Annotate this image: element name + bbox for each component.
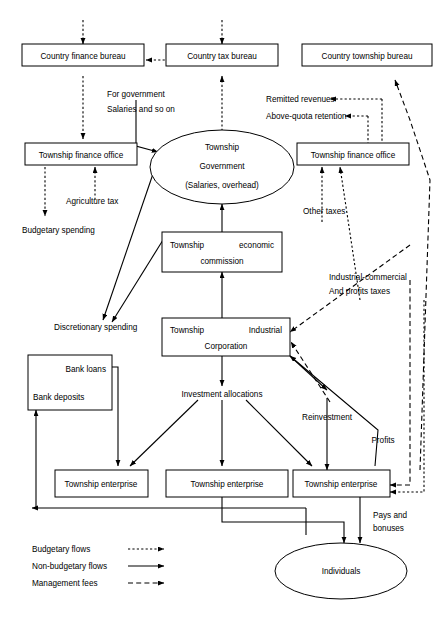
node-township-government[interactable]: Township Government (Salaries, overhead) — [150, 130, 294, 204]
legend-item-2-label: Management fees — [32, 579, 98, 588]
node-country-township-bureau-label: Country township bureau — [321, 52, 412, 61]
label-pays-and-bonuses-line1: Pays and — [373, 511, 408, 520]
node-economic-commission-line1b: economic — [239, 241, 274, 250]
node-township-enterprise-1-label: Township enterprise — [65, 480, 138, 489]
label-investment-allocations: Investment allocations — [181, 390, 262, 399]
node-industrial-corporation-line2: Corporation — [205, 342, 248, 351]
node-industrial-corporation-line1b: Industrial — [249, 326, 282, 335]
node-township-economic-commission[interactable]: Township economic commission — [162, 232, 282, 272]
node-township-finance-office-right[interactable]: Township finance office — [297, 143, 409, 165]
node-country-township-bureau[interactable]: Country township bureau — [302, 44, 432, 66]
label-profits: Profits — [371, 436, 394, 445]
node-township-finance-office-right-label: Township finance office — [311, 151, 396, 160]
node-bank-loans-label: Bank loans — [65, 365, 106, 374]
label-reinvestment: Reinvestment — [302, 413, 353, 422]
node-township-government-line2: Government — [199, 162, 245, 171]
node-township-finance-office-left-label: Township finance office — [39, 151, 124, 160]
node-township-enterprise-1[interactable]: Township enterprise — [55, 470, 148, 497]
node-township-government-line1: Township — [205, 143, 240, 152]
node-township-enterprise-3[interactable]: Township enterprise — [293, 470, 390, 497]
node-country-finance-bureau[interactable]: Country finance bureau — [22, 44, 144, 66]
flow-diagram: Country finance bureau Country tax burea… — [0, 0, 443, 618]
node-economic-commission-line1a: Township — [170, 241, 205, 250]
node-township-enterprise-2-label: Township enterprise — [191, 480, 264, 489]
label-remitted-revenues: Remitted revenues — [266, 95, 335, 104]
node-country-tax-bureau[interactable]: Country tax bureau — [166, 44, 278, 66]
label-for-government-line2: Salaries and so on — [107, 105, 175, 114]
label-budgetary-spending: Budgetary spending — [22, 226, 95, 235]
label-discretionary-spending: Discretionary spending — [54, 323, 138, 332]
label-other-taxes: Other taxes — [303, 207, 345, 216]
node-bank-deposits-label: Bank deposits — [33, 393, 84, 402]
node-township-enterprise-2[interactable]: Township enterprise — [166, 470, 288, 497]
node-township-industrial-corporation[interactable]: Township Industrial Corporation — [162, 318, 290, 356]
label-above-quota-retention: Above-quota retention — [266, 112, 347, 121]
label-pays-and-bonuses-line2: bonuses — [373, 524, 404, 533]
label-agriculture-tax: Agriculture tax — [66, 197, 118, 206]
node-individuals[interactable]: Individuals — [275, 543, 407, 599]
label-for-government-line1: For government — [107, 90, 166, 99]
node-township-government-line3: (Salaries, overhead) — [185, 181, 259, 190]
label-industrial-commercial-line2: And profits taxes — [329, 287, 390, 296]
node-bank[interactable]: Bank loans Bank deposits — [28, 355, 112, 410]
legend-item-1-label: Non-budgetary flows — [32, 562, 107, 571]
node-economic-commission-line2: commission — [200, 257, 244, 266]
legend-item-0-label: Budgetary flows — [32, 545, 90, 554]
node-township-finance-office-left[interactable]: Township finance office — [25, 143, 137, 165]
label-industrial-commercial-line1: Industrial-commercial — [329, 273, 407, 282]
node-country-tax-bureau-label: Country tax bureau — [187, 52, 257, 61]
node-industrial-corporation-line1a: Township — [170, 326, 205, 335]
node-country-finance-bureau-label: Country finance bureau — [40, 52, 126, 61]
node-township-enterprise-3-label: Township enterprise — [305, 480, 378, 489]
node-individuals-label: Individuals — [322, 567, 361, 576]
